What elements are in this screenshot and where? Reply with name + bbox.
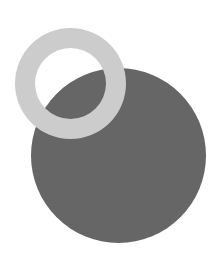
graphic-canvas bbox=[0, 0, 221, 253]
